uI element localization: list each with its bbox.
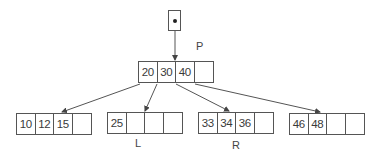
- edge-root-leaf1: [145, 84, 157, 111]
- root-key-3: [195, 62, 214, 82]
- leaf3-key-1: 48: [309, 114, 328, 134]
- root-label: P: [196, 40, 203, 52]
- leaf-node-0: 10 12 15: [16, 113, 92, 135]
- leaf1-key-1: [127, 113, 146, 133]
- pointer-dot-icon: [173, 19, 177, 23]
- leaf3-key-0: 46: [290, 114, 309, 134]
- edge-root-leaf0: [62, 84, 140, 112]
- leaf2-key-3: [255, 113, 274, 133]
- leaf0-key-1: 12: [36, 114, 55, 134]
- leaf1-label: L: [135, 137, 141, 149]
- root-key-0: 20: [139, 62, 158, 82]
- leaf-node-2: 33 34 36: [198, 112, 274, 134]
- root-pointer-box: [168, 10, 181, 31]
- leaf-node-1: 25: [107, 112, 183, 134]
- leaf0-key-2: 15: [54, 114, 73, 134]
- root-key-1: 30: [158, 62, 177, 82]
- leaf2-key-2: 36: [236, 113, 255, 133]
- leaf0-key-0: 10: [17, 114, 36, 134]
- leaf2-key-1: 34: [218, 113, 237, 133]
- edge-root-leaf3: [195, 84, 320, 112]
- leaf2-label: R: [232, 139, 240, 151]
- leaf1-key-3: [164, 113, 183, 133]
- leaf3-key-2: [327, 114, 346, 134]
- leaf3-key-3: [346, 114, 365, 134]
- root-key-2: 40: [176, 62, 195, 82]
- leaf1-key-0: 25: [108, 113, 127, 133]
- leaf2-key-0: 33: [199, 113, 218, 133]
- leaf1-key-2: [145, 113, 164, 133]
- leaf-node-3: 46 48: [289, 113, 365, 135]
- root-node: 20 30 40: [138, 61, 214, 83]
- leaf0-key-3: [73, 114, 92, 134]
- edge-root-leaf2: [176, 84, 229, 111]
